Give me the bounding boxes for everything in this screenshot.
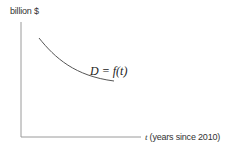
y-axis-label: billion $	[10, 6, 39, 16]
x-axis-label-rest: (years since 2010)	[147, 132, 220, 142]
x-axis-label: t (years since 2010)	[145, 132, 220, 142]
chart: billion $ D = f(t) t (years since 2010)	[0, 0, 226, 150]
curve-label: D = f(t)	[90, 64, 127, 79]
